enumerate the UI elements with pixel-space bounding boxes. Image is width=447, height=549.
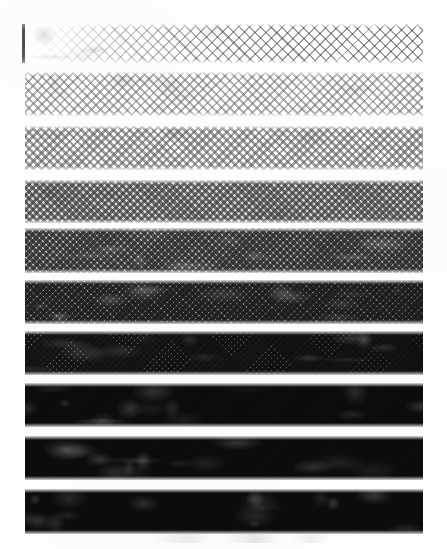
density-band-9: [25, 436, 423, 480]
halftone-screen-layer: [25, 180, 423, 223]
density-band-1: [25, 24, 423, 63]
halftone-screen-layer: [25, 489, 423, 534]
density-band-10: [25, 489, 423, 534]
halftone-screen-layer: [25, 24, 423, 63]
density-band-7: [25, 331, 423, 375]
halftone-screen-layer: [25, 436, 423, 480]
density-band-5: [25, 228, 423, 273]
halftone-screen-layer: [25, 228, 423, 273]
halftone-screen-layer: [25, 72, 423, 116]
halftone-screen-layer: [25, 126, 423, 170]
halftone-screen-layer: [25, 383, 423, 427]
density-band-6: [25, 280, 423, 324]
scan-smudge-artifact: [150, 534, 330, 543]
halftone-screen-layer: [25, 331, 423, 375]
density-band-2: [25, 72, 423, 116]
density-band-8: [25, 383, 423, 427]
density-band-3: [25, 126, 423, 170]
density-wedge-sheet: [0, 0, 447, 549]
density-band-4: [25, 180, 423, 223]
halftone-screen-layer: [25, 280, 423, 324]
